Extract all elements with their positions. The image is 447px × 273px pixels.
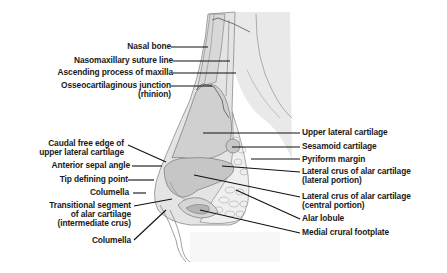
nasal-anatomy-figure: Nasal bone Nasomaxillary suture line Asc… xyxy=(0,0,447,273)
label-transitional-segment: Transitional segment of alar cartilage (… xyxy=(49,201,131,229)
label-caudal-free-edge: Caudal free edge of upper lateral cartil… xyxy=(39,139,124,157)
label-tip-defining-point: Tip defining point xyxy=(60,175,128,184)
label-nasomaxillary-suture-line: Nasomaxillary suture line xyxy=(74,56,173,65)
label-lateral-crus-central-portion: Lateral crus of alar cartilage (central … xyxy=(302,192,411,210)
label-osseocartilaginous-junction: Osseocartilaginous junction (rhinion) xyxy=(61,81,171,99)
label-medial-crural-footplate: Medial crural footplate xyxy=(302,228,389,237)
label-anterior-septal-angle: Anterior sepal angle xyxy=(51,161,130,170)
cheek-region xyxy=(232,12,292,160)
label-lateral-crus-lateral-portion: Lateral crus of alar cartilage (lateral … xyxy=(302,167,411,185)
label-upper-lateral-cartilage: Upper lateral cartilage xyxy=(302,128,388,137)
label-pyriform-margin: Pyriform margin xyxy=(302,155,365,164)
label-columella-upper: Columella xyxy=(90,188,129,197)
label-columella-lower: Columella xyxy=(92,236,131,245)
label-sesamoid-cartilage: Sesamoid cartilage xyxy=(302,142,377,151)
label-ascending-process-of-maxilla: Ascending process of maxilla xyxy=(58,68,173,77)
label-alar-lobule: Alar lobule xyxy=(302,214,344,223)
sesamoid-cartilage-shape xyxy=(226,139,240,153)
label-nasal-bone: Nasal bone xyxy=(127,42,171,51)
